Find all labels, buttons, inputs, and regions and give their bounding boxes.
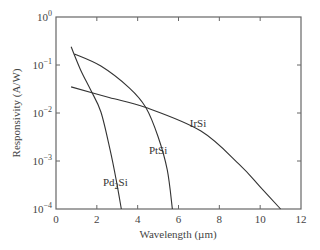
y-tick-label: 10−3 xyxy=(32,153,52,167)
x-tick-label: 10 xyxy=(255,213,267,225)
plot-frame xyxy=(56,17,301,209)
y-tick-label: 100 xyxy=(37,9,52,23)
series-label-ptsi: PtSi xyxy=(149,144,167,156)
y-tick-label: 10−2 xyxy=(32,105,52,119)
series-label-irsi: IrSi xyxy=(190,117,207,129)
x-axis-title: Wavelength (µm) xyxy=(139,228,217,241)
x-tick-label: 4 xyxy=(135,213,141,225)
x-tick-label: 2 xyxy=(94,213,100,225)
x-tick-label: 6 xyxy=(176,213,182,225)
y-axis-title: Responsivity (A/W) xyxy=(10,68,23,157)
x-tick-label: 8 xyxy=(217,213,223,225)
x-tick-label: 0 xyxy=(53,213,59,225)
series-line-irsi xyxy=(71,87,280,209)
y-tick-label: 10−4 xyxy=(32,201,52,215)
x-tick-label: 12 xyxy=(296,213,307,225)
responsivity-chart: 02468101210010−110−210−310−4 Pd2SiPtSiIr… xyxy=(0,0,320,250)
y-tick-label: 10−1 xyxy=(32,57,52,71)
